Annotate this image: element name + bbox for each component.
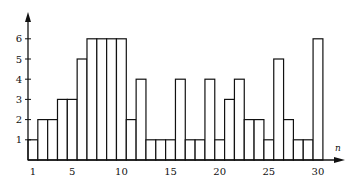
bar-n-17 xyxy=(185,140,195,160)
bar-n-14 xyxy=(156,140,166,160)
bar-n-12 xyxy=(136,79,146,160)
bar-n-13 xyxy=(146,140,156,160)
bar-n-30 xyxy=(313,39,323,160)
y-tick-label: 5 xyxy=(16,54,22,65)
bar-n-26 xyxy=(274,59,284,160)
x-tick-label: 30 xyxy=(312,166,325,177)
bar-n-6 xyxy=(77,59,87,160)
bar-n-29 xyxy=(303,140,313,160)
x-axis-label: n xyxy=(335,143,341,153)
y-tick-label: 6 xyxy=(16,33,22,44)
bar-n-7 xyxy=(87,39,97,160)
bar-n-23 xyxy=(244,120,254,160)
y-tick-label: 4 xyxy=(16,74,22,85)
bar-n-3 xyxy=(48,120,58,160)
x-tick-label: 1 xyxy=(30,166,36,177)
bar-n-9 xyxy=(107,39,117,160)
bar-n-25 xyxy=(264,140,274,160)
bar-n-10 xyxy=(116,39,126,160)
y-tick-label: 2 xyxy=(16,114,22,125)
y-tick-label: 1 xyxy=(16,134,22,145)
bar-n-19 xyxy=(205,79,215,160)
y-axis-arrow-icon xyxy=(25,12,31,22)
bar-n-11 xyxy=(126,120,136,160)
bar-n-18 xyxy=(195,140,205,160)
histogram-chart: 123456 151015202530 n xyxy=(0,0,353,183)
y-tick-label: 3 xyxy=(16,94,22,105)
bar-n-20 xyxy=(215,140,225,160)
bar-n-16 xyxy=(175,79,185,160)
y-ticks-group: 123456 xyxy=(16,33,31,145)
bars-group xyxy=(28,39,323,160)
bar-n-8 xyxy=(97,39,107,160)
bar-n-28 xyxy=(293,140,303,160)
bar-n-22 xyxy=(234,79,244,160)
bar-n-5 xyxy=(67,99,77,160)
bar-n-1 xyxy=(28,140,38,160)
bar-n-15 xyxy=(166,140,176,160)
bar-n-24 xyxy=(254,120,264,160)
bar-n-27 xyxy=(284,120,294,160)
x-tick-label: 10 xyxy=(115,166,128,177)
x-tick-label: 15 xyxy=(164,166,177,177)
x-tick-label: 20 xyxy=(213,166,226,177)
x-ticks-group: 151015202530 xyxy=(30,166,325,177)
x-tick-label: 25 xyxy=(262,166,275,177)
bar-n-4 xyxy=(57,99,67,160)
x-tick-label: 5 xyxy=(69,166,75,177)
x-axis-arrow-icon xyxy=(334,157,345,163)
bar-n-21 xyxy=(225,99,235,160)
bar-n-2 xyxy=(38,120,48,160)
